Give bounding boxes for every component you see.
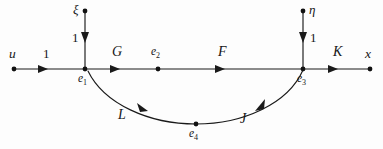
arrow-l-icon bbox=[137, 103, 148, 112]
node-label-e1-sub: 1 bbox=[83, 78, 87, 87]
edge-label-eta-e3: 1 bbox=[310, 31, 317, 44]
node-dot-e2 bbox=[156, 67, 161, 72]
node-dot-eta bbox=[301, 9, 306, 14]
node-dot-e4 bbox=[194, 122, 199, 127]
arrow-e3-x-icon bbox=[328, 65, 338, 73]
node-label-e4-sub: 4 bbox=[194, 133, 198, 142]
signal-flow-graph: u e1 e2 e3 e4 x ξ η 1 G F K 1 1 J L bbox=[0, 0, 383, 149]
edge-label-xi-e1: 1 bbox=[72, 31, 79, 44]
node-dot-xi bbox=[83, 9, 88, 14]
node-label-e2-sub: 2 bbox=[156, 51, 160, 60]
node-label-u: u bbox=[9, 47, 16, 61]
node-dot-x bbox=[368, 67, 373, 72]
arrow-eta-e3-icon bbox=[299, 32, 307, 43]
edge-label-f: F bbox=[218, 45, 227, 59]
node-label-x: x bbox=[365, 47, 371, 61]
arrow-u-e1-icon bbox=[38, 65, 48, 73]
node-label-e1: e1 bbox=[78, 73, 87, 87]
node-label-e3: e3 bbox=[297, 73, 306, 87]
node-label-e4: e4 bbox=[189, 128, 198, 142]
edge-label-j: J bbox=[240, 112, 246, 126]
edge-label-l: L bbox=[118, 108, 126, 122]
arrow-e2-e3-icon bbox=[215, 65, 225, 73]
node-dot-e1 bbox=[83, 67, 88, 72]
edge-label-u-e1: 1 bbox=[43, 47, 50, 60]
edge-label-g: G bbox=[112, 45, 122, 59]
node-label-e3-sub: 3 bbox=[302, 78, 306, 87]
node-label-xi: ξ bbox=[73, 3, 79, 16]
node-dot-u bbox=[12, 67, 17, 72]
node-label-e2: e2 bbox=[151, 46, 160, 60]
edge-label-k: K bbox=[333, 45, 342, 59]
node-label-eta: η bbox=[309, 3, 315, 16]
arrow-e1-e2-icon bbox=[110, 65, 120, 73]
node-dot-e3 bbox=[301, 67, 306, 72]
arrow-xi-e1-icon bbox=[81, 32, 89, 43]
